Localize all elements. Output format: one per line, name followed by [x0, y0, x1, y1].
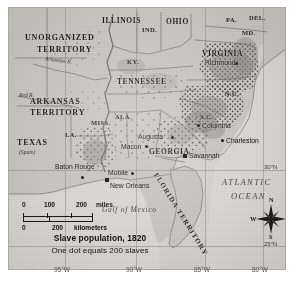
compass-label-north: N: [269, 196, 274, 203]
state-label-north-carolina: N.C.: [225, 91, 239, 98]
scale-km-unit: kilometers: [74, 224, 107, 231]
compass-label-south: S: [269, 233, 273, 240]
state-label-delaware: DEL.: [249, 15, 266, 22]
caption-subtitle: One dot equals 200 slaves: [25, 246, 175, 255]
state-label-louisiana: LA.: [65, 132, 77, 139]
scale-miles-tick-100: 100: [44, 201, 55, 208]
state-label-south-carolina: S.C.: [200, 114, 213, 121]
map-plate: UNORGANIZED TERRITORY ARKANSAS TERRITORY…: [8, 7, 286, 270]
city-label-columbia: Columbia: [202, 123, 231, 130]
compass-label-west: W: [250, 215, 256, 222]
scale-miles-unit: miles: [96, 201, 113, 208]
scale-miles-tick-0: 0: [22, 201, 26, 208]
territory-label-unorganized-line1: UNORGANIZED: [25, 34, 95, 42]
scale-km-tick-0: 0: [22, 224, 26, 231]
city-label-savannah: Savannah: [189, 153, 220, 160]
city-label-richmond: Richmond: [205, 60, 236, 67]
water-label-atlantic: ATLANTIC: [222, 178, 272, 187]
compass-rose: N S E W: [249, 193, 286, 241]
state-label-pennsylvania: PA.: [226, 17, 237, 24]
latitude-label-30n: 30°N: [264, 164, 277, 170]
city-label-augusta: Augusta: [138, 134, 163, 141]
latitude-label-25n: 25°N: [264, 241, 277, 247]
territory-label-unorganized-line2: TERRITORY: [37, 46, 92, 54]
longitude-label-90w: 90°W: [126, 266, 142, 273]
territory-label-arkansas-line2: TERRITORY: [30, 109, 85, 117]
graticule-line-90w: [136, 8, 137, 269]
state-label-virginia: VIRGINIA: [202, 50, 243, 58]
scale-km-tick-200: 200: [52, 224, 63, 231]
state-label-kentucky: KY.: [127, 59, 139, 66]
caption-title: Slave population, 1820: [25, 233, 175, 243]
graticule-line-30n: [9, 170, 285, 171]
city-dot-new-orleans: [105, 178, 109, 182]
longitude-label-95w: 95°W: [54, 266, 70, 273]
state-label-ohio: OHIO: [166, 18, 189, 26]
city-label-baton-rouge: Baton Rouge: [55, 163, 95, 171]
longitude-strip: 95°W 90°W 85°W 80°W: [0, 266, 294, 280]
longitude-label-80w: 80°W: [252, 266, 268, 273]
graticule-line-85w: [205, 8, 206, 269]
map-figure: UNORGANIZED TERRITORY ARKANSAS TERRITORY…: [0, 0, 294, 291]
territory-label-texas-spain: (Spain): [19, 150, 35, 156]
city-label-new-orleans: New Orleans: [110, 183, 149, 190]
state-label-alabama: ALA.: [115, 114, 132, 121]
city-label-mobile: Mobile: [108, 170, 128, 177]
river-label-red: Red R.: [19, 93, 34, 99]
scale-bar-miles: 0 100 200 miles: [20, 201, 116, 214]
territory-label-texas: TEXAS: [17, 139, 48, 147]
map-caption: Slave population, 1820 One dot equals 20…: [25, 233, 175, 255]
territory-label-arkansas-line1: ARKANSAS: [30, 98, 80, 106]
state-label-indiana: IND.: [142, 27, 157, 34]
scale-miles-tick-200: 200: [76, 201, 87, 208]
state-label-tennessee: TENNESSEE: [117, 78, 167, 86]
scale-bar: 0 100 200 miles 0 200 kilometers: [20, 201, 116, 234]
city-dot-savannah: [183, 154, 187, 158]
state-label-maryland: MD.: [242, 30, 256, 37]
city-label-macon: Macon: [121, 144, 141, 151]
state-label-illinois: ILLINOIS: [102, 17, 141, 25]
city-label-charleston: Charleston: [226, 138, 259, 145]
longitude-label-85w: 85°W: [194, 266, 210, 273]
state-label-mississippi: MISS.: [91, 120, 111, 127]
